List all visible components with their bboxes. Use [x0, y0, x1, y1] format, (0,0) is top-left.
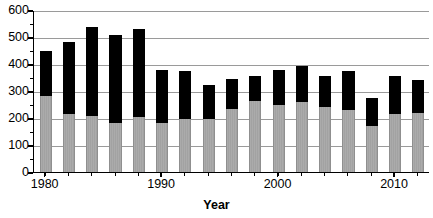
bar-segment-upper: [319, 76, 331, 107]
bar-segment-upper: [86, 27, 98, 115]
x-axis-tick-label: 2000: [264, 178, 292, 191]
x-axis-minor-tick: [231, 173, 232, 176]
y-axis-tick-label: 500: [0, 31, 29, 44]
bar-segment-upper: [133, 29, 145, 117]
bar-segment-lower: [249, 101, 261, 172]
bar-segment-lower: [40, 96, 52, 172]
bar-1980[interactable]: [40, 51, 52, 172]
bar-segment-upper: [179, 71, 191, 119]
x-axis-tick-label: 2010: [380, 178, 408, 191]
bar-segment-lower: [179, 119, 191, 172]
bar-segment-lower: [156, 123, 168, 172]
bar-segment-upper: [203, 85, 215, 119]
bar-1986[interactable]: [109, 35, 121, 172]
x-axis-tick-label: 1980: [31, 178, 59, 191]
x-axis-minor-tick: [347, 173, 348, 176]
bar-segment-upper: [342, 71, 354, 110]
bar-segment-upper: [389, 76, 401, 114]
y-axis-tick-label: 200: [0, 112, 29, 125]
y-axis-tick-label: 300: [0, 85, 29, 98]
bar-2002[interactable]: [296, 66, 308, 172]
bar-segment-upper: [109, 35, 121, 122]
x-axis-minor-tick: [184, 173, 185, 176]
x-axis-minor-tick: [208, 173, 209, 176]
x-axis-minor-tick: [417, 173, 418, 176]
bar-1998[interactable]: [249, 76, 261, 172]
bar-segment-upper: [249, 76, 261, 101]
bar-segment-lower: [133, 117, 145, 172]
bar-segment-lower: [203, 119, 215, 172]
bar-segment-upper: [273, 70, 285, 105]
bar-1996[interactable]: [226, 79, 238, 172]
stacked-bar-chart: 0100200300400500600 Year 198019902000201…: [0, 0, 433, 218]
bar-segment-upper: [63, 42, 75, 114]
x-axis-minor-tick: [254, 173, 255, 176]
bar-segment-upper: [226, 79, 238, 110]
x-axis-minor-tick: [91, 173, 92, 176]
gridline-600: [34, 11, 429, 12]
bar-2000[interactable]: [273, 70, 285, 172]
y-axis-tick-label: 400: [0, 58, 29, 71]
x-axis-title: Year: [0, 199, 433, 212]
bar-1994[interactable]: [203, 85, 215, 172]
bar-segment-lower: [86, 116, 98, 172]
bar-segment-lower: [109, 123, 121, 172]
bar-segment-lower: [366, 126, 378, 172]
x-axis-minor-tick: [324, 173, 325, 176]
plot-area: [33, 11, 429, 173]
bar-1992[interactable]: [179, 71, 191, 172]
bar-segment-lower: [226, 109, 238, 172]
x-axis-minor-tick: [68, 173, 69, 176]
bar-segment-upper: [412, 80, 424, 114]
bar-1990[interactable]: [156, 70, 168, 172]
bar-segment-lower: [389, 114, 401, 172]
x-axis-minor-tick: [138, 173, 139, 176]
x-axis-tick-label: 1990: [147, 178, 175, 191]
bar-segment-lower: [342, 110, 354, 172]
bar-2006[interactable]: [342, 71, 354, 172]
bar-segment-upper: [156, 70, 168, 123]
bar-segment-upper: [296, 66, 308, 102]
bar-segment-lower: [296, 102, 308, 172]
bar-1982[interactable]: [63, 42, 75, 172]
bar-segment-lower: [412, 113, 424, 172]
x-axis-minor-tick: [115, 173, 116, 176]
y-axis-tick-label: 0: [0, 166, 29, 179]
bar-segment-lower: [273, 105, 285, 173]
bar-segment-lower: [63, 114, 75, 172]
bar-2004[interactable]: [319, 76, 331, 172]
x-axis-minor-tick: [371, 173, 372, 176]
y-axis-tick-label: 600: [0, 4, 29, 17]
bar-1988[interactable]: [133, 29, 145, 172]
bar-2008[interactable]: [366, 98, 378, 172]
x-axis-minor-tick: [301, 173, 302, 176]
bar-2012[interactable]: [412, 80, 424, 172]
bar-1984[interactable]: [86, 27, 98, 172]
bar-segment-lower: [319, 107, 331, 172]
y-axis-tick-label: 100: [0, 139, 29, 152]
bar-segment-upper: [366, 98, 378, 125]
bar-2010[interactable]: [389, 76, 401, 172]
bar-segment-upper: [40, 51, 52, 96]
